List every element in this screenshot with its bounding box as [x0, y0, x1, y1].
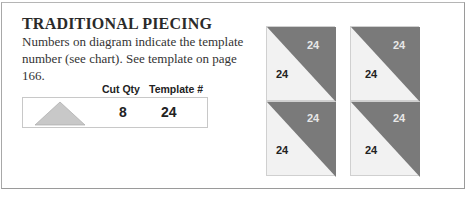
cut-qty-value: 8	[119, 104, 127, 120]
quilt-block-bottom-right: 24 24	[350, 101, 419, 176]
dark-patch-label: 24	[393, 39, 405, 51]
dark-patch-label: 24	[307, 39, 319, 51]
light-patch-label: 24	[365, 144, 377, 156]
triangle-template-icon	[33, 100, 87, 126]
quilt-block-bottom-left: 24 24	[266, 101, 335, 176]
section-heading: TRADITIONAL PIECING	[22, 15, 212, 33]
light-patch-label: 24	[365, 68, 377, 80]
dark-patch-label: 24	[393, 112, 405, 124]
template-number-value: 24	[161, 104, 177, 120]
light-patch-label: 24	[276, 144, 288, 156]
section-description: Numbers on diagram indicate the template…	[22, 33, 262, 84]
light-patch-label: 24	[276, 68, 288, 80]
cutting-chart-row: 8 24	[22, 97, 208, 128]
dark-patch-label: 24	[307, 112, 319, 124]
template-header: Template #	[149, 83, 203, 95]
quilt-block-top-right: 24 24	[350, 26, 419, 101]
cut-qty-header: Cut Qty	[102, 83, 140, 95]
quilt-block-top-left: 24 24	[266, 26, 335, 101]
